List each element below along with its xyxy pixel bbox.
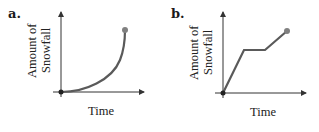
- panel-label-a: a.: [8, 6, 21, 21]
- origin-point-a: [59, 90, 64, 95]
- panel-b: b. Amount of Snowfall Time: [171, 6, 306, 119]
- y-axis-title-b-line2: Snowfall: [201, 29, 215, 75]
- endpoint-b: [284, 28, 290, 34]
- y-axis-title-a-line1: Amount of: [25, 23, 39, 78]
- endpoint-a: [122, 27, 128, 33]
- curve-a: [61, 30, 125, 92]
- figure: a. Amount of Snowfall Time b. Amount of …: [0, 0, 319, 132]
- curve-b: [223, 31, 287, 93]
- panel-a: a. Amount of Snowfall Time: [8, 6, 144, 118]
- origin-point-b: [221, 91, 226, 96]
- panel-label-b: b.: [171, 6, 185, 21]
- x-axis-title-b: Time: [250, 105, 276, 119]
- y-axis-title-b-line1: Amount of: [187, 25, 201, 80]
- x-axis-title-a: Time: [88, 104, 114, 118]
- y-axis-title-a-line2: Snowfall: [39, 27, 53, 73]
